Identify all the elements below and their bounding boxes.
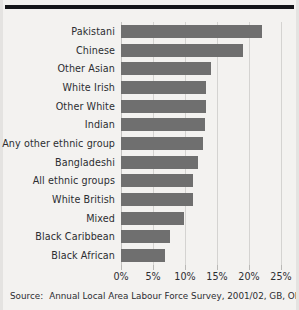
bar-row: Mixed	[0, 209, 299, 228]
bar	[121, 44, 243, 57]
category-label: Bangladeshi	[0, 157, 115, 168]
bar	[121, 100, 206, 113]
bar-row: Chinese	[0, 41, 299, 60]
x-tick-label: 10%	[174, 271, 195, 282]
x-tick-label: 0%	[113, 271, 128, 282]
bar-row: White Irish	[0, 78, 299, 97]
bar-chart: PakistaniChineseOther AsianWhite IrishOt…	[0, 16, 299, 274]
bar	[121, 249, 165, 262]
category-label: Any other ethnic group	[0, 138, 115, 149]
source-note: Source:Annual Local Area Labour Force Su…	[10, 291, 299, 301]
tick-20%	[249, 265, 250, 270]
top-rule-divider	[5, 5, 294, 9]
bar-row: Other Asian	[0, 59, 299, 78]
bar-row: Any other ethnic group	[0, 134, 299, 153]
x-tick-label: 15%	[206, 271, 227, 282]
bar-row: Indian	[0, 115, 299, 134]
category-label: White British	[0, 194, 115, 205]
source-text: Annual Local Area Labour Force Survey, 2…	[49, 291, 299, 301]
bar	[121, 62, 211, 75]
category-label: Other Asian	[0, 63, 115, 74]
figure-page: PakistaniChineseOther AsianWhite IrishOt…	[0, 0, 299, 310]
category-label: Indian	[0, 119, 115, 130]
bar	[121, 212, 184, 225]
bar-row: Bangladeshi	[0, 153, 299, 172]
source-label: Source:	[10, 291, 43, 301]
category-label: Black African	[0, 250, 115, 261]
category-label: Pakistani	[0, 26, 115, 37]
category-label: White Irish	[0, 82, 115, 93]
tick-25%	[281, 265, 282, 270]
bar	[121, 118, 205, 131]
category-label: Black Caribbean	[0, 231, 115, 242]
bar	[121, 156, 198, 169]
bar-row: All ethnic groups	[0, 172, 299, 191]
bar-row: Pakistani	[0, 22, 299, 41]
x-tick-label: 20%	[238, 271, 259, 282]
tick-15%	[217, 265, 218, 270]
category-label: Mixed	[0, 213, 115, 224]
bar	[121, 81, 206, 94]
x-tick-label: 5%	[145, 271, 160, 282]
bar	[121, 193, 193, 206]
bar-row: White British	[0, 190, 299, 209]
category-label: All ethnic groups	[0, 175, 115, 186]
category-label: Chinese	[0, 45, 115, 56]
bar	[121, 230, 170, 243]
x-axis-tick-labels: 0%5%10%15%20%25%	[0, 271, 299, 287]
bar	[121, 174, 193, 187]
x-tick-label: 25%	[270, 271, 291, 282]
tick-0%	[121, 265, 122, 270]
bar	[121, 25, 262, 38]
tick-10%	[185, 265, 186, 270]
bar-row: Black African	[0, 246, 299, 265]
bar-row: Black Caribbean	[0, 228, 299, 247]
bar-row: Other White	[0, 97, 299, 116]
category-label: Other White	[0, 101, 115, 112]
bar-rows: PakistaniChineseOther AsianWhite IrishOt…	[0, 22, 299, 265]
tick-5%	[153, 265, 154, 270]
bar	[121, 137, 203, 150]
